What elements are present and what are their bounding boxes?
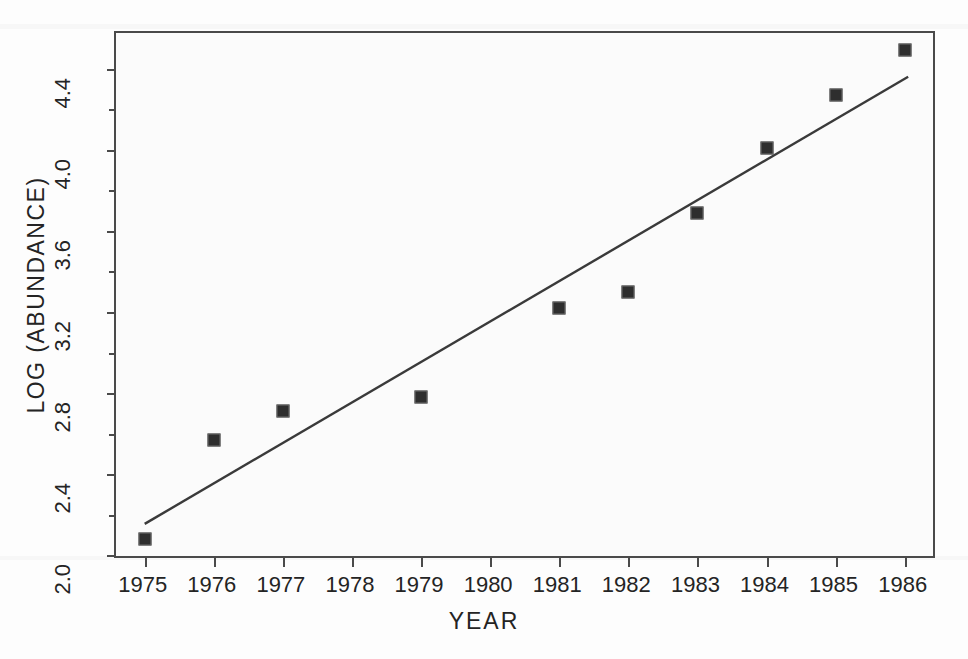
data-point-marker	[276, 405, 289, 418]
x-axis-tick-labels: 1975197619771978197919801981198219831984…	[0, 572, 968, 602]
x-axis-tick-label: 1976	[187, 572, 236, 598]
x-axis-tick-label: 1980	[464, 572, 513, 598]
y-axis-minor-tick	[109, 515, 116, 517]
data-point-marker	[553, 301, 566, 314]
data-point-marker	[760, 141, 773, 154]
data-point-marker	[898, 44, 911, 57]
x-axis-tick	[836, 556, 838, 567]
data-point-marker	[207, 433, 220, 446]
y-axis-title: LOG (ABUNDANCE)	[18, 31, 54, 558]
figure-scatter-plot: 2.02.42.83.23.64.04.4 197519761977197819…	[0, 0, 968, 659]
y-axis-minor-tick	[109, 109, 116, 111]
x-axis-tick	[490, 556, 492, 567]
x-axis-tick-label: 1985	[809, 572, 858, 598]
x-axis-tick	[767, 556, 769, 567]
x-axis-tick	[145, 556, 147, 567]
y-axis-major-tick	[107, 231, 116, 233]
y-axis-major-tick	[107, 555, 116, 557]
y-axis-major-tick	[107, 69, 116, 71]
x-axis-tick	[283, 556, 285, 567]
x-axis-tick	[628, 556, 630, 567]
x-axis-title: YEAR	[0, 608, 968, 635]
plot-area	[116, 33, 933, 556]
y-axis-major-tick	[107, 474, 116, 476]
x-axis-tick-label: 1978	[325, 572, 374, 598]
y-axis-minor-tick	[109, 353, 116, 355]
x-axis-tick	[697, 556, 699, 567]
x-axis-tick-label: 1986	[878, 572, 927, 598]
y-axis-minor-tick	[109, 190, 116, 192]
x-axis-tick-label: 1982	[602, 572, 651, 598]
data-point-marker	[829, 89, 842, 102]
x-axis-tick-label: 1977	[256, 572, 305, 598]
x-axis-tick	[214, 556, 216, 567]
x-axis-tick-label: 1984	[740, 572, 789, 598]
y-axis-major-tick	[107, 150, 116, 152]
x-axis-tick	[421, 556, 423, 567]
x-axis-tick-label: 1975	[118, 572, 167, 598]
x-axis-tick	[905, 556, 907, 567]
x-axis-tick	[559, 556, 561, 567]
x-axis-tick-label: 1981	[533, 572, 582, 598]
plot-frame	[114, 31, 935, 558]
data-point-marker	[691, 206, 704, 219]
y-axis-minor-tick	[109, 434, 116, 436]
x-axis-tick-label: 1983	[671, 572, 720, 598]
x-axis-tick-label: 1979	[395, 572, 444, 598]
data-point-marker	[622, 285, 635, 298]
y-axis-minor-tick	[109, 271, 116, 273]
data-point-marker	[415, 391, 428, 404]
y-axis-major-tick	[107, 393, 116, 395]
scan-artifact	[0, 24, 968, 29]
x-axis-tick	[352, 556, 354, 567]
data-point-marker	[138, 533, 151, 546]
y-axis-title-text: LOG (ABUNDANCE)	[23, 176, 50, 413]
y-axis-major-tick	[107, 312, 116, 314]
regression-line	[116, 33, 937, 560]
